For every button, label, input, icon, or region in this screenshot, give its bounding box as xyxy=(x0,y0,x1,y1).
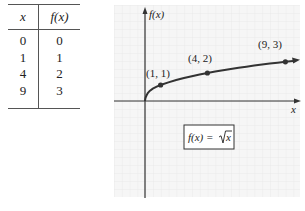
formula-radicand: x xyxy=(225,131,231,143)
sqrt-graph: f(x) x (1, 1) (4, 2) (9, 3) f(x) = x xyxy=(0,0,305,211)
x-axis-label: x xyxy=(290,103,296,115)
point-1-1 xyxy=(158,82,163,87)
point-9-3 xyxy=(283,59,288,64)
point-9-3-label: (9, 3) xyxy=(258,38,282,51)
point-4-2 xyxy=(205,70,210,75)
point-4-2-label: (4, 2) xyxy=(188,52,212,65)
y-axis-label: f(x) xyxy=(149,8,165,21)
point-1-1-label: (1, 1) xyxy=(146,67,170,80)
formula-prefix: f(x) = xyxy=(188,131,216,144)
